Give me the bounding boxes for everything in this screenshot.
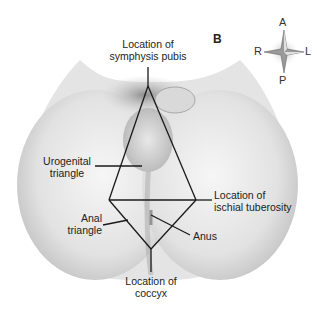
label-anal-triangle: Anal triangle (60, 212, 102, 236)
perineum-diagram: B A P R L Location of symphysis pubis Ur… (0, 0, 317, 311)
orientation-compass (264, 30, 304, 73)
label-coccyx: Location of coccyx (111, 275, 191, 299)
label-ischial-tuberosity: Location of ischial tuberosity (214, 189, 292, 213)
scrotum (123, 108, 173, 172)
panel-letter: B (213, 32, 222, 46)
label-urogenital-triangle: Urogenital triangle (38, 155, 96, 179)
compass-left-label: L (305, 45, 311, 57)
label-anus: Anus (193, 230, 217, 242)
compass-anterior-label: A (279, 16, 286, 28)
compass-right-label: R (254, 45, 262, 57)
label-symphysis-pubis: Location of symphysis pubis (103, 38, 193, 62)
compass-posterior-label: P (279, 74, 286, 86)
penis (155, 87, 195, 113)
